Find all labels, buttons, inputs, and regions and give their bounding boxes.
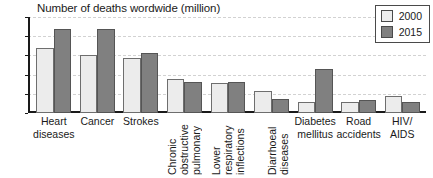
bar-2015-7 bbox=[359, 100, 376, 113]
bar-2000-0 bbox=[36, 48, 53, 113]
bar-2000-5 bbox=[254, 91, 271, 113]
bar-2015-1 bbox=[97, 29, 114, 113]
legend: 2000 2015 bbox=[375, 5, 430, 43]
legend-swatch-2015-icon bbox=[381, 26, 393, 38]
legend-label-2000: 2000 bbox=[399, 10, 422, 22]
x-label-5: Diarrhoeal diseases bbox=[254, 115, 290, 175]
bars-layer bbox=[28, 17, 426, 113]
bar-2015-4 bbox=[228, 82, 245, 113]
bar-2000-2 bbox=[123, 58, 140, 113]
x-label-8: HIV/ AIDS bbox=[374, 115, 430, 140]
bar-2000-1 bbox=[80, 55, 97, 113]
plot-area: 0246810 bbox=[28, 17, 426, 113]
x-label-text: Diarrhoeal diseases bbox=[266, 115, 290, 175]
bar-2015-6 bbox=[315, 69, 332, 113]
legend-swatch-2000-icon bbox=[381, 10, 393, 22]
legend-item-2015: 2015 bbox=[381, 26, 422, 38]
bar-2000-4 bbox=[211, 83, 228, 113]
legend-item-2000: 2000 bbox=[381, 10, 422, 22]
x-label-text: Lower respiratory inflections bbox=[210, 115, 246, 175]
bar-2015-8 bbox=[402, 102, 419, 113]
chart-title: Number of deaths wordwide (million) bbox=[37, 2, 220, 14]
y-tick-mark bbox=[25, 113, 28, 114]
bar-2015-3 bbox=[184, 82, 201, 113]
bar-2000-7 bbox=[341, 102, 358, 113]
x-label-4: Lower respiratory inflections bbox=[210, 115, 246, 175]
bar-2015-2 bbox=[141, 53, 158, 113]
bar-2000-6 bbox=[298, 102, 315, 113]
x-label-2: Strokes bbox=[113, 115, 169, 128]
x-label-3: Chronic obstructive pulmonary bbox=[166, 115, 202, 175]
x-label-text: Chronic obstructive pulmonary bbox=[166, 115, 202, 175]
bar-2015-0 bbox=[54, 29, 71, 113]
bar-2000-3 bbox=[167, 79, 184, 113]
bar-2000-8 bbox=[385, 96, 402, 113]
bar-2015-5 bbox=[272, 99, 289, 113]
bar-chart: Number of deaths wordwide (million) 0246… bbox=[0, 0, 433, 178]
x-axis-category-labels: Heart diseasesCancerStrokesChronic obstr… bbox=[28, 115, 426, 178]
legend-label-2015: 2015 bbox=[399, 26, 422, 38]
